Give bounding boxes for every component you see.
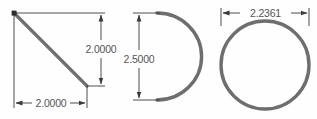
figure-circle: 2.2361 (221, 7, 309, 109)
vertical-dimension-label: 2.0000 (86, 43, 117, 55)
arc-vertical-dimension-group: 2.5000 (124, 15, 155, 98)
vertical-dimension-group: 2.0000 (86, 15, 117, 84)
horizontal-dimension-group: 2.0000 (16, 97, 85, 109)
diagonal-line (14, 13, 87, 86)
circle-path (221, 21, 309, 109)
technical-drawing-canvas: 2.0000 2.0000 2.5000 (0, 0, 317, 119)
horizontal-dimension-label: 2.0000 (36, 97, 67, 109)
vertex-marker-top-left (12, 11, 17, 16)
circle-dimension-label: 2.2361 (250, 7, 281, 19)
circle-dimension-group: 2.2361 (223, 7, 307, 19)
arc-path (157, 13, 202, 100)
figure-arc: 2.5000 (124, 13, 202, 100)
figure-right-triangle: 2.0000 2.0000 (12, 11, 117, 109)
arc-dimension-label: 2.5000 (124, 53, 155, 65)
